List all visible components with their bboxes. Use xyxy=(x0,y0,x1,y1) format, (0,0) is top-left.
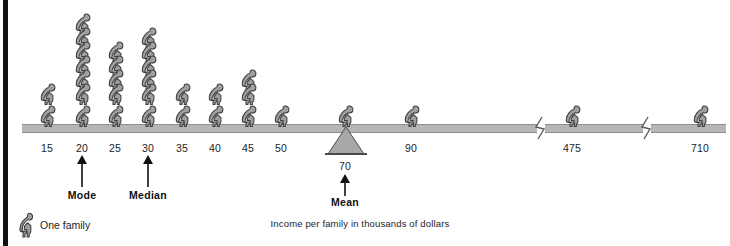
family-figure-icon xyxy=(107,105,126,127)
axis-tick-710: 710 xyxy=(680,142,720,154)
family-figure-icon xyxy=(692,105,711,127)
axis-break-icon-2 xyxy=(637,116,657,140)
family-figure-icon xyxy=(207,83,226,105)
family-figure-icon xyxy=(140,105,159,127)
callout-arrow-median xyxy=(142,155,154,191)
fulcrum-base xyxy=(325,153,367,155)
figure-stack-475 xyxy=(564,105,583,127)
figure-stack-40 xyxy=(207,91,226,127)
figure-stack-710 xyxy=(692,105,711,127)
axis-break-icon-1 xyxy=(531,116,551,140)
family-figure-icon xyxy=(403,105,422,127)
axis-tick-90: 90 xyxy=(391,142,431,154)
family-figure-icon xyxy=(564,105,583,127)
seated-person-icon xyxy=(18,212,35,238)
figure-stack-50 xyxy=(273,105,292,127)
figure-stack-45 xyxy=(240,77,259,127)
family-figure-icon xyxy=(174,83,193,105)
family-figure-icon xyxy=(39,83,58,105)
axis-tick-475: 475 xyxy=(552,142,592,154)
family-figure-icon xyxy=(337,105,356,127)
figure-stack-35 xyxy=(174,91,193,127)
legend-label: One family xyxy=(40,219,90,231)
left-edge-rule xyxy=(3,0,8,246)
figure-stack-70 xyxy=(337,105,356,127)
x-axis-caption: Income per family in thousands of dollar… xyxy=(200,218,520,229)
family-figure-icon xyxy=(74,105,93,127)
family-figure-icon xyxy=(39,105,58,127)
pictograph-figure: 15202530354045507090475710 ModeMedianMea… xyxy=(0,0,730,246)
legend: One family xyxy=(18,212,90,238)
family-figure-icon xyxy=(207,105,226,127)
family-figure-icon xyxy=(140,83,159,105)
family-figure-icon xyxy=(107,83,126,105)
figure-stack-15 xyxy=(39,91,58,127)
axis-tick-70: 70 xyxy=(325,160,365,172)
figure-stack-30 xyxy=(140,35,159,127)
figure-stack-90 xyxy=(403,105,422,127)
fulcrum-triangle-icon xyxy=(327,127,365,155)
figure-stack-20 xyxy=(74,21,93,127)
callout-label-median: Median xyxy=(113,189,183,201)
family-figure-icon xyxy=(273,105,292,127)
callout-label-mode: Mode xyxy=(47,189,117,201)
axis-tick-50: 50 xyxy=(261,142,301,154)
callout-arrow-mode xyxy=(76,155,88,191)
family-figure-icon xyxy=(74,83,93,105)
figure-stack-25 xyxy=(107,49,126,127)
callout-label-mean: Mean xyxy=(310,196,380,208)
family-figure-icon xyxy=(240,105,259,127)
family-figure-icon xyxy=(240,83,259,105)
family-figure-icon xyxy=(174,105,193,127)
axis-tick-15: 15 xyxy=(27,142,67,154)
axis-beam-right xyxy=(651,124,726,133)
axis-beam-mid xyxy=(545,124,643,133)
